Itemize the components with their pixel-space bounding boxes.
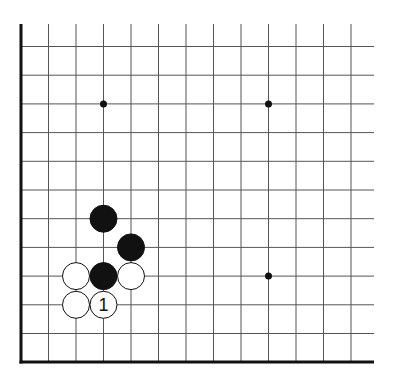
white-stone <box>63 291 90 318</box>
black-stone <box>90 263 117 290</box>
star-point-icon <box>265 100 272 107</box>
go-board: 1 <box>0 0 394 382</box>
star-point-icon <box>100 100 107 107</box>
move-number-label: 1 <box>98 295 108 315</box>
black-stone <box>118 234 145 261</box>
white-stone <box>118 263 145 290</box>
white-stone <box>63 263 90 290</box>
star-point-icon <box>265 273 272 280</box>
black-stone <box>90 205 117 232</box>
